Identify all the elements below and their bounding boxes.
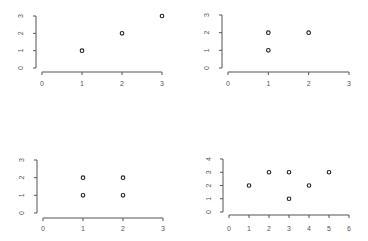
y-tick-label: 3 [17, 14, 24, 18]
x-tick-label: 0 [41, 225, 45, 232]
data-point-circle-icon [121, 176, 125, 180]
x-tick-label: 3 [160, 80, 164, 87]
x-tick-label: 4 [307, 225, 311, 232]
x-axis: 0123 [41, 218, 165, 232]
x-tick-label: 1 [266, 80, 270, 87]
y-tick-label: 1 [18, 193, 25, 197]
y-axis: 01234 [205, 157, 223, 214]
data-point-circle-icon [81, 176, 85, 180]
data-point-circle-icon [80, 49, 84, 53]
x-tick-label: 2 [120, 80, 124, 87]
x-tick-label: 1 [81, 225, 85, 232]
y-tick-label: 4 [205, 157, 212, 161]
y-tick-label: 1 [205, 197, 212, 201]
x-tick-label: 0 [227, 225, 231, 232]
scatter-panel-bottom-left: 01230123 [18, 158, 165, 232]
data-point-circle-icon [287, 170, 291, 174]
x-tick-label: 2 [267, 225, 271, 232]
x-tick-label: 3 [161, 225, 165, 232]
y-tick-label: 1 [17, 49, 24, 53]
y-axis: 0123 [203, 13, 222, 70]
y-tick-label: 3 [205, 170, 212, 174]
data-points [81, 176, 125, 197]
data-point-circle-icon [307, 184, 311, 188]
scatter-panel-top-left: 01230123 [17, 14, 164, 87]
scatter-panel-bottom-right: 012345601234 [205, 157, 351, 232]
x-tick-label: 3 [287, 225, 291, 232]
data-point-circle-icon [160, 14, 164, 18]
data-point-circle-icon [267, 31, 271, 35]
x-tick-label: 6 [347, 225, 351, 232]
data-point-circle-icon [121, 194, 125, 198]
y-tick-label: 2 [205, 183, 212, 187]
y-tick-label: 2 [203, 31, 210, 35]
x-tick-label: 2 [121, 225, 125, 232]
y-axis: 0123 [18, 158, 37, 215]
data-point-circle-icon [287, 197, 291, 201]
y-tick-label: 0 [17, 66, 24, 70]
data-point-circle-icon [327, 170, 331, 174]
x-axis: 0123 [40, 72, 164, 87]
scatter-plot-grid: 01230123 01230123 01230123 012345601234 [0, 0, 368, 241]
data-points [267, 31, 311, 52]
x-tick-label: 2 [307, 80, 311, 87]
data-points [80, 14, 164, 52]
y-tick-label: 2 [17, 31, 24, 35]
x-tick-label: 5 [327, 225, 331, 232]
data-point-circle-icon [247, 184, 251, 188]
data-point-circle-icon [81, 194, 85, 198]
x-tick-label: 0 [40, 80, 44, 87]
x-tick-label: 0 [226, 80, 230, 87]
data-point-circle-icon [267, 49, 271, 53]
x-axis: 0123456 [227, 215, 351, 232]
data-point-circle-icon [307, 31, 311, 35]
x-axis: 0123 [226, 72, 351, 87]
y-axis: 0123 [17, 14, 36, 70]
x-tick-label: 3 [347, 80, 351, 87]
y-tick-label: 0 [18, 211, 25, 215]
data-point-circle-icon [120, 32, 124, 36]
y-tick-label: 2 [18, 176, 25, 180]
y-tick-label: 3 [18, 158, 25, 162]
x-tick-label: 1 [80, 80, 84, 87]
y-tick-label: 3 [203, 13, 210, 17]
y-tick-label: 0 [203, 66, 210, 70]
y-tick-label: 0 [205, 210, 212, 214]
y-tick-label: 1 [203, 48, 210, 52]
x-tick-label: 1 [247, 225, 251, 232]
data-points [247, 170, 331, 200]
scatter-panel-top-right: 01230123 [203, 13, 351, 87]
data-point-circle-icon [267, 170, 271, 174]
